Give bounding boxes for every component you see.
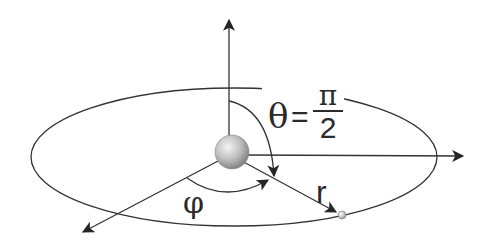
theta-label: θ [268,99,288,133]
spherical-coordinates-diagram [0,0,487,249]
equals-sign: = [291,102,309,132]
x-axis [248,155,463,156]
pi-over-two-fraction: π 2 [313,84,343,142]
central-sphere [215,135,249,169]
fraction-numerator: π [313,84,343,108]
orbiting-body [338,211,346,219]
fraction-denominator: 2 [313,114,343,142]
radius-label: r [316,176,327,208]
phi-label: φ [183,188,204,218]
